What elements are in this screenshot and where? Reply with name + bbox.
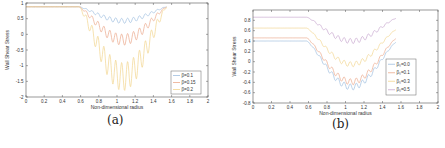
y-tick-label: -0.6 bbox=[243, 90, 251, 95]
y-tick-label: -0.4 bbox=[243, 80, 251, 85]
x-tick-label: 2 bbox=[437, 105, 440, 110]
chart-panel-b: 00.20.40.60.811.21.41.61.820.80.60.40.20… bbox=[222, 0, 445, 148]
y-tick-label: -1.5 bbox=[16, 79, 24, 84]
x-tick-label: 1.8 bbox=[187, 99, 194, 104]
y-tick-label: 0 bbox=[248, 59, 251, 64]
x-tick-label: 1.8 bbox=[416, 105, 423, 110]
y-tick-label: -0.8 bbox=[243, 101, 251, 106]
y-tick-label: -1 bbox=[19, 63, 23, 68]
x-tick-label: 0 bbox=[252, 105, 255, 110]
caption-a: (a) bbox=[107, 113, 124, 127]
y-tick-label: 0.5 bbox=[17, 16, 24, 21]
series-line bbox=[253, 38, 396, 85]
y-tick-label: 1 bbox=[21, 1, 24, 6]
y-axis-label: Wall Shear Stress bbox=[231, 36, 237, 76]
x-tick-label: 0.6 bbox=[77, 99, 84, 104]
y-tick-label: -0.5 bbox=[16, 48, 24, 53]
legend: β₀=0.0β₀=0.1β₀=0.3β₀=0.5 bbox=[386, 59, 416, 95]
y-tick-label: 0 bbox=[21, 32, 24, 37]
caption-b: (b) bbox=[332, 117, 349, 131]
x-tick-label: 1.4 bbox=[150, 99, 157, 104]
legend-entry: β₀=0.1 bbox=[397, 70, 411, 75]
x-axis-label: Non-dimensional radius bbox=[91, 104, 144, 110]
legend-entry: β=0.2 bbox=[182, 87, 194, 92]
series-line bbox=[253, 28, 396, 67]
x-tick-label: 0.4 bbox=[59, 99, 66, 104]
x-tick-label: 0.6 bbox=[305, 105, 312, 110]
series-line bbox=[26, 7, 167, 45]
x-axis-label: Non-dimensional radius bbox=[319, 110, 372, 116]
x-tick-label: 2 bbox=[207, 99, 210, 104]
x-tick-label: 1.6 bbox=[168, 99, 175, 104]
y-tick-label: 0.2 bbox=[244, 49, 251, 54]
legend-entry: β₀=0.3 bbox=[397, 79, 411, 84]
x-tick-label: 0.4 bbox=[287, 105, 294, 110]
legend-entry: β₀=0.5 bbox=[397, 87, 411, 92]
y-tick-label: -2 bbox=[19, 95, 23, 100]
series-line bbox=[26, 7, 167, 24]
x-tick-label: 0 bbox=[25, 99, 28, 104]
chart-panel-a: 00.20.40.60.811.21.41.61.8210.50-0.5-1-1… bbox=[0, 0, 222, 148]
legend-entry: β₀=0.0 bbox=[397, 62, 411, 67]
legend-entry: β=0.1 bbox=[182, 73, 194, 78]
x-tick-label: 1.4 bbox=[379, 105, 386, 110]
x-tick-label: 0.2 bbox=[41, 99, 48, 104]
y-tick-label: 0.6 bbox=[244, 28, 251, 33]
y-tick-label: -0.2 bbox=[243, 70, 251, 75]
series-line bbox=[253, 17, 396, 43]
x-tick-label: 0.2 bbox=[268, 105, 275, 110]
series-line bbox=[26, 7, 167, 91]
series-line bbox=[253, 41, 396, 90]
x-tick-label: 1.6 bbox=[398, 105, 405, 110]
legend: β=0.1β=0.15β=0.2 bbox=[171, 71, 201, 94]
y-tick-label: 0.8 bbox=[244, 18, 251, 23]
y-axis-label: Wall Shear Stress bbox=[4, 30, 10, 70]
legend-entry: β=0.15 bbox=[182, 80, 196, 85]
y-tick-label: 0.4 bbox=[244, 39, 251, 44]
